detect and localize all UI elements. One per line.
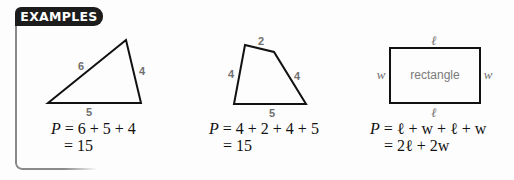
triangle-side-label: 6 — [78, 60, 84, 72]
perimeter-variable: P — [51, 120, 61, 137]
formula-expression: = 6 + 5 + 4 — [61, 120, 136, 137]
quadrilateral-side-label: 4 — [294, 70, 300, 82]
quadrilateral-formula-line2: = 15 — [223, 137, 252, 155]
rectangle-width-label-right: w — [484, 67, 493, 83]
rectangle-formula-line2: = 2ℓ + 2w — [384, 137, 449, 155]
triangle-side-label: 5 — [86, 106, 92, 118]
rectangle-center-text: rectangle — [410, 68, 459, 82]
perimeter-variable: P — [209, 120, 219, 137]
rectangle-formula-line1: P = ℓ + w + ℓ + w — [370, 120, 486, 138]
triangle-formula-line2: = 15 — [64, 137, 93, 155]
triangle-formula-line1: P = 6 + 5 + 4 — [51, 120, 136, 138]
rectangle-width-label-left: w — [377, 67, 386, 83]
quadrilateral-side-label: 2 — [258, 35, 264, 47]
triangle-side-label: 4 — [139, 65, 145, 77]
quadrilateral-formula-line1: P = 4 + 2 + 4 + 5 — [209, 120, 319, 138]
perimeter-variable: P — [370, 120, 380, 137]
triangle-shape — [48, 40, 141, 103]
rectangle-length-label-bottom: ℓ — [431, 105, 436, 121]
formula-expression: = ℓ + w + ℓ + w — [380, 120, 487, 137]
formula-expression: = 4 + 2 + 4 + 5 — [219, 120, 319, 137]
rectangle-length-label-top: ℓ — [431, 33, 436, 49]
quadrilateral-side-label: 5 — [269, 107, 275, 119]
quadrilateral-side-label: 4 — [228, 68, 234, 80]
